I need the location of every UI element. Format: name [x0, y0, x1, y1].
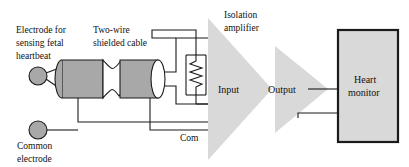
cable-right-open-end: [151, 60, 165, 98]
wire-output-return: [298, 113, 338, 118]
isolation-amplifier-label-line1: Isolation: [224, 10, 257, 20]
electrode-label-line1: Electrode for: [16, 25, 67, 35]
common-electrode-label-line2: electrode: [17, 154, 52, 164]
wire-top-bus: [152, 30, 196, 38]
cable-left-cap: [55, 60, 62, 98]
diagram-canvas: Electrode for sensing fetal heartbeat Tw…: [0, 0, 409, 167]
heart-monitor-box: [338, 30, 398, 142]
isolation-amplifier-label-line2: amplifier: [224, 23, 260, 33]
fetal-sensing-electrode-icon: [29, 67, 47, 85]
common-terminal-label: Com: [180, 133, 199, 143]
heart-monitor-label-line2: monitor: [348, 87, 380, 98]
heart-monitor-label-line1: Heart: [354, 74, 376, 85]
isolation-amplifier-diagram: Electrode for sensing fetal heartbeat Tw…: [0, 0, 409, 167]
cable-label-line2: shielded cable: [93, 38, 147, 48]
electrode-label-line2: sensing fetal: [16, 38, 64, 48]
wire-shield-left-drop: [78, 98, 214, 122]
output-stage-label: Output: [268, 84, 296, 95]
common-shield-wiring: [78, 98, 214, 130]
cable-left-body: [62, 60, 103, 98]
two-wire-shielded-cable: [55, 60, 165, 98]
input-stage-label: Input: [218, 84, 239, 95]
common-electrode-label-line1: Common: [17, 141, 53, 151]
cable-label-line1: Two-wire: [93, 25, 130, 35]
electrode-label-line3: heartbeat: [16, 51, 51, 61]
common-electrode-icon: [29, 121, 47, 139]
wire-shield-right-drop: [150, 98, 214, 130]
resistor-zigzag-icon: [190, 57, 202, 93]
